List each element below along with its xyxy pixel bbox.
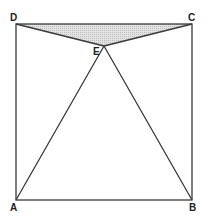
label-d: D (10, 12, 17, 23)
segment-ae (16, 46, 104, 200)
label-c: C (188, 12, 195, 23)
segment-be (104, 46, 192, 200)
shaded-triangle-dec (16, 24, 192, 46)
square-abcd (16, 24, 192, 200)
label-a: A (10, 202, 17, 213)
label-b: B (189, 202, 196, 213)
geometry-diagram: D C E A B (0, 0, 208, 220)
label-e: E (93, 46, 100, 57)
